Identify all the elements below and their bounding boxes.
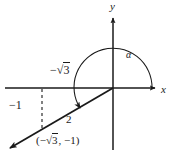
y-axis-label: y [110, 1, 115, 12]
point-label-prefix: (− [36, 134, 46, 146]
point-label-suffix: , −1) [58, 134, 79, 146]
coordinate-plane-figure [0, 0, 177, 158]
point-coordinate-label: (−√3, −1) [36, 135, 79, 146]
x-coordinate-radicand: 3 [63, 62, 70, 77]
x-coordinate-prefix: − [50, 63, 57, 77]
x-axis-label: x [161, 84, 166, 95]
x-coordinate-label: −√3 [50, 64, 70, 76]
radical-sign: √ [46, 135, 52, 146]
radical-sign: √ [57, 64, 64, 76]
radius-length-label: 2 [66, 114, 72, 125]
y-coordinate-label: −1 [9, 99, 22, 111]
angle-label-alpha: α [126, 50, 131, 60]
